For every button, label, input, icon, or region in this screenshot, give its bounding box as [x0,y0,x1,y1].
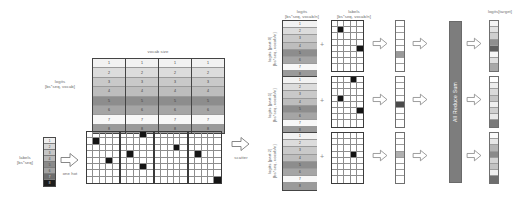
rank-gathered-strip [395,76,405,128]
rank-logits-cell: 5 [283,50,317,57]
rank-label-line2: [bs*seq, vocab/n] [272,79,277,131]
rank-gathered-strip [395,20,405,72]
rank-gathered-cell [396,120,404,126]
rank-labels-row [332,64,363,70]
rank-labels-grid [331,132,364,184]
rank-logits-cell: 4 [283,43,317,50]
rank-labels-grid [331,76,364,128]
output-logits-target-strip [489,132,499,184]
rank-arrow-to-allreduce-icon [412,37,428,50]
rank-logits-cell: 5 [283,106,317,113]
plus-symbol: + [320,153,324,160]
rank-logits-cell: 4 [283,99,317,106]
rank-labels-grid [331,20,364,72]
rank-gathered-cell [396,64,404,70]
rank-gathered-strip [395,132,405,184]
rank-logits-column: 12345678 [282,132,317,191]
rank-label-cell [357,64,363,70]
rank-arrow-to-output-icon [466,149,482,162]
output-logits-target-strip [489,76,499,128]
rank-labels-row [332,176,363,182]
rank-arrow-to-output-icon [466,37,482,50]
rank-logits-cell: 7 [283,64,317,71]
rank-arrow-to-allreduce-icon [412,93,428,106]
output-logits-target-strip [489,20,499,72]
rank-logits-cell: 2 [283,84,317,91]
output-logits-target-cell [490,176,498,182]
rank-logits-column: 12345678 [282,76,317,135]
rank-logits-cell: 5 [283,162,317,169]
output-logits-target-cell [490,120,498,126]
rank-logits-cell: 3 [283,91,317,98]
rank-labels-row [332,120,363,126]
rank-arrow-to-strip-icon [372,37,388,50]
all-reduce-sum-bar: All Reduce Sum [449,21,462,183]
rank-gathered-cell [396,176,404,182]
rank-logits-cell: 6 [283,57,317,64]
rank-logits-cell: 6 [283,113,317,120]
rank-arrow-to-strip-icon [372,93,388,106]
rank-logits-cell: 1 [283,133,317,140]
rank-logits-cell: 4 [283,155,317,162]
rank-logits-cell: 7 [283,120,317,127]
rank-logits-column: 12345678 [282,20,317,79]
rank-label-line2: [bs*seq, vocab/n] [272,23,277,75]
rank-logits-cell: 2 [283,28,317,35]
rank-label-line2: [bs*seq, vocab/n] [272,135,277,187]
all-reduce-sum-label: All Reduce Sum [453,82,459,122]
rank-label-cell [357,120,363,126]
rank-arrow-to-strip-icon [372,149,388,162]
rank-arrow-to-allreduce-icon [412,149,428,162]
rank-logits-cell: 6 [283,169,317,176]
rank-logits-cell: 1 [283,77,317,84]
rank-logits-cell: 1 [283,21,317,28]
rank-logits-cell: 7 [283,176,317,183]
output-logits-target-cell [490,64,498,70]
rank-logits-cell: 8 [283,183,317,189]
plus-symbol: + [320,41,324,48]
rank-logits-cell: 3 [283,147,317,154]
rank-label-cell [357,176,363,182]
rank-arrow-to-output-icon [466,93,482,106]
rank-logits-cell: 3 [283,35,317,42]
plus-symbol: + [320,97,324,104]
rank-logits-cell: 2 [283,140,317,147]
